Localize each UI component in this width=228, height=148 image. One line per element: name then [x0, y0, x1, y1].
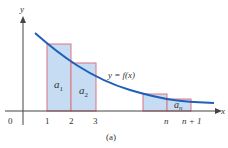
x-tick-n: n — [164, 116, 169, 126]
y-axis-arrow-icon — [20, 16, 26, 23]
x-tick-2: 2 — [69, 116, 74, 126]
x-tick-1: 1 — [45, 116, 50, 126]
x-axis-label: x — [220, 106, 225, 116]
y-axis-label: y — [19, 4, 24, 14]
x-tick-3: 3 — [93, 116, 98, 126]
origin-label: 0 — [8, 116, 13, 126]
integral-test-diagram: y x 0 1 2 3 n n + 1 a1 a2 an y = f(x) (a… — [0, 0, 228, 148]
curve-label: y = f(x) — [107, 70, 135, 80]
x-tick-n-plus-1: n + 1 — [182, 116, 202, 126]
figure-caption: (a) — [106, 132, 116, 142]
